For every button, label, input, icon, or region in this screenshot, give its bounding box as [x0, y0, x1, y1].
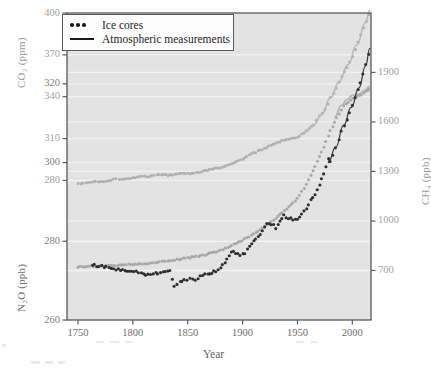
- data-point: [150, 174, 153, 177]
- data-point: [78, 265, 81, 268]
- data-point: [152, 174, 155, 177]
- x-tick-label: 1900: [229, 328, 257, 339]
- data-point: [197, 277, 200, 280]
- scan-artifact: [311, 341, 318, 343]
- data-point: [194, 279, 197, 282]
- ice-cores-dots-icon: [70, 23, 100, 27]
- data-point: [333, 121, 336, 124]
- n2o-tick-label: 320: [44, 78, 60, 89]
- data-point: [300, 212, 303, 215]
- data-point: [223, 247, 226, 250]
- data-point: [192, 172, 195, 175]
- scan-artifact: [96, 341, 104, 343]
- data-point: [219, 166, 222, 169]
- data-point: [203, 272, 206, 275]
- data-point: [311, 196, 314, 199]
- data-point: [163, 270, 166, 273]
- data-point: [157, 173, 160, 176]
- ch4-tick-label: 1900: [378, 67, 399, 78]
- data-point: [298, 215, 301, 218]
- data-point: [214, 270, 217, 273]
- data-point: [122, 263, 125, 266]
- data-point: [263, 225, 266, 228]
- data-point: [171, 173, 174, 176]
- n2o-tick-label: 260: [44, 315, 60, 326]
- data-point: [246, 247, 249, 250]
- data-point: [179, 172, 182, 175]
- data-point: [238, 254, 241, 257]
- data-point: [318, 184, 321, 187]
- data-point: [329, 129, 332, 132]
- x-tick-label: 1800: [119, 328, 147, 339]
- data-point: [294, 199, 297, 202]
- data-point: [280, 217, 283, 220]
- data-point: [81, 181, 84, 184]
- data-point: [322, 146, 325, 149]
- data-point: [239, 158, 242, 161]
- scan-artifact: [110, 341, 119, 343]
- scan-artifact: [125, 341, 132, 343]
- data-point: [201, 254, 204, 257]
- data-point: [243, 237, 246, 240]
- data-point: [152, 272, 155, 275]
- ch4-axis-title: CH₄ (ppb): [420, 158, 431, 206]
- data-point: [171, 278, 174, 281]
- data-point: [322, 172, 325, 175]
- data-point: [221, 263, 224, 266]
- data-point: [195, 255, 198, 258]
- data-point: [258, 228, 261, 231]
- data-point: [151, 261, 154, 264]
- data-point: [87, 181, 90, 184]
- data-point: [184, 172, 187, 175]
- n2o-axis-title: N₂O (ppb): [16, 264, 27, 312]
- data-point: [291, 218, 294, 221]
- scan-artifact: [45, 361, 53, 364]
- data-point: [291, 201, 294, 204]
- data-point: [137, 271, 140, 274]
- data-point: [184, 256, 187, 259]
- data-point: [245, 155, 248, 158]
- data-point: [298, 134, 301, 137]
- data-point: [318, 155, 321, 158]
- data-point: [219, 266, 222, 269]
- data-point: [274, 227, 277, 230]
- data-point: [327, 135, 330, 138]
- data-point: [93, 263, 96, 266]
- x-tick-label: 1850: [174, 328, 202, 339]
- data-point: [94, 180, 97, 183]
- data-point: [87, 265, 90, 268]
- data-point: [298, 194, 301, 197]
- data-point: [182, 278, 185, 281]
- n2o-tick-label: 280: [44, 236, 60, 247]
- chart-legend: Ice cores Atmospheric measurements: [62, 14, 234, 51]
- data-point: [175, 283, 178, 286]
- data-point: [296, 197, 299, 200]
- atmospheric-line-icon: [70, 38, 100, 40]
- data-point: [159, 271, 162, 274]
- data-point: [313, 165, 316, 168]
- co2-tick-label: 280: [44, 175, 60, 186]
- data-point: [168, 269, 171, 272]
- data-point: [217, 268, 220, 271]
- co2-axis-title: CO₂ (ppm): [16, 37, 27, 88]
- legend-label-ice-cores: Ice cores: [100, 19, 143, 31]
- data-point: [77, 182, 80, 185]
- co2-tick-label: 370: [44, 49, 60, 60]
- data-point: [340, 109, 343, 112]
- x-tick-label: 1750: [64, 328, 92, 339]
- ch4-tick-label: 1600: [378, 116, 399, 127]
- data-point: [243, 252, 246, 255]
- data-point: [320, 151, 323, 154]
- data-point: [173, 259, 176, 262]
- legend-label-atmospheric-measurements: Atmospheric measurements: [100, 33, 230, 45]
- data-point: [303, 187, 306, 190]
- data-point: [287, 205, 290, 208]
- data-point: [105, 180, 108, 183]
- data-point: [225, 257, 228, 260]
- data-point: [219, 248, 222, 251]
- data-point: [132, 270, 135, 273]
- data-point: [347, 101, 350, 104]
- data-point: [324, 165, 327, 168]
- data-point: [224, 261, 227, 264]
- data-point: [307, 178, 310, 181]
